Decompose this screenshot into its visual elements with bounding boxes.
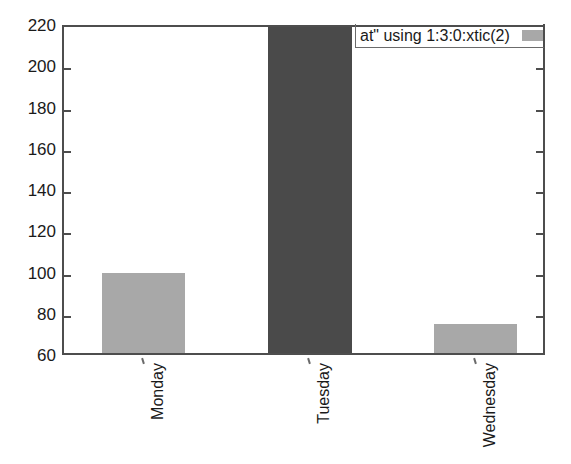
y-axis-tick-mark xyxy=(64,275,71,277)
y-axis-tick-label: 80 xyxy=(4,306,56,323)
x-axis-tick-mark xyxy=(473,358,477,364)
y-axis-tick-mark xyxy=(64,110,71,112)
x-axis-category-label: Wednesday xyxy=(482,363,498,447)
bar-wednesday xyxy=(434,324,517,353)
y-axis-tick-mark xyxy=(64,192,71,194)
x-axis-tick-mark xyxy=(307,358,311,364)
y-axis-tick-label: 200 xyxy=(4,58,56,75)
bar-monday xyxy=(102,273,185,354)
y-axis-tick-labels: 6080100120140160180200220 xyxy=(0,0,56,464)
y-axis-tick-mark xyxy=(536,233,543,235)
y-axis-tick-label: 160 xyxy=(4,141,56,158)
legend: at" using 1:3:0:xtic(2) xyxy=(355,24,545,48)
y-axis-tick-mark xyxy=(64,151,71,153)
y-axis-tick-mark xyxy=(64,233,71,235)
y-axis-tick-mark xyxy=(536,151,543,153)
y-axis-tick-label: 180 xyxy=(4,100,56,117)
y-axis-tick-label: 120 xyxy=(4,223,56,240)
bar-chart: 6080100120140160180200220 MondayTuesdayW… xyxy=(0,0,571,464)
plot-area xyxy=(62,25,545,355)
legend-entry-label: at" using 1:3:0:xtic(2) xyxy=(356,28,510,44)
y-axis-tick-label: 140 xyxy=(4,182,56,199)
x-axis-tick-mark xyxy=(141,358,145,364)
y-axis-tick-mark xyxy=(536,68,543,70)
y-axis-tick-label: 220 xyxy=(4,17,56,34)
x-axis-category-label: Monday xyxy=(150,363,166,420)
y-axis-tick-mark xyxy=(64,68,71,70)
y-axis-tick-mark xyxy=(536,110,543,112)
bar-tuesday xyxy=(268,25,352,353)
y-axis-tick-mark xyxy=(64,316,71,318)
y-axis-tick-mark xyxy=(536,275,543,277)
legend-color-swatch xyxy=(522,30,543,41)
y-axis-tick-label: 60 xyxy=(4,347,56,364)
x-axis-category-label: Tuesday xyxy=(316,363,332,424)
y-axis-tick-mark xyxy=(536,192,543,194)
y-axis-tick-label: 100 xyxy=(4,265,56,282)
y-axis-tick-mark xyxy=(536,316,543,318)
